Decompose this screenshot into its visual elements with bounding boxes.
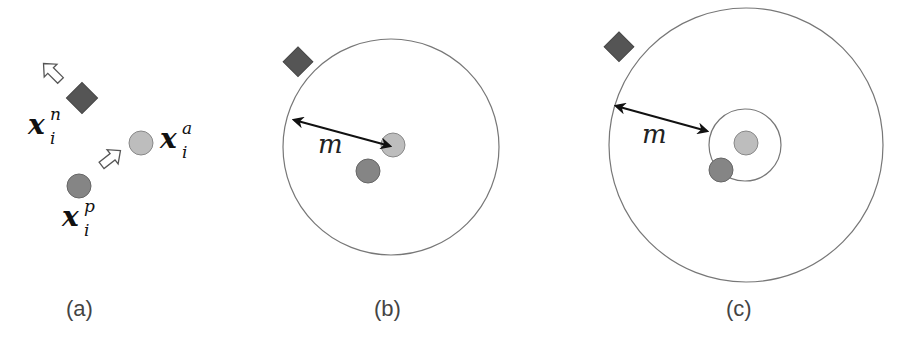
margin-label-b: m [318, 129, 343, 159]
push-away-arrow-icon [37, 57, 67, 87]
margin-label-c: m [642, 119, 667, 149]
positive-circle [67, 174, 91, 198]
caption-a: (a) [66, 296, 93, 322]
triplet-diagram [0, 0, 907, 342]
negative-label: x n i [28, 108, 78, 148]
positive-circle [356, 159, 380, 183]
negative-diamond [283, 47, 313, 77]
caption-b: (b) [374, 296, 401, 322]
negative-diamond [604, 32, 634, 62]
positive-circle [709, 158, 733, 182]
pull-arrow-icon [96, 144, 126, 173]
positive-label: x p i [62, 200, 112, 240]
anchor-circle [734, 131, 758, 155]
panel-b [283, 39, 499, 255]
anchor-label: x a i [160, 122, 210, 162]
caption-c: (c) [726, 296, 752, 322]
anchor-circle [129, 131, 153, 155]
